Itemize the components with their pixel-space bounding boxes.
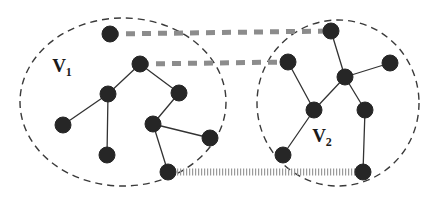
graph-node	[202, 130, 218, 146]
graph-node	[357, 102, 373, 118]
graph-node	[102, 26, 118, 42]
graph-node	[306, 102, 322, 118]
graph-nodes	[55, 23, 398, 180]
graph-partition-figure: V1V2	[0, 0, 439, 202]
graph-edge	[153, 124, 210, 138]
graph-node	[382, 55, 398, 71]
graph-node	[100, 86, 116, 102]
graph-canvas: V1V2	[0, 0, 439, 202]
graph-node	[99, 147, 115, 163]
cluster-boundaries	[20, 18, 419, 186]
cut-edges	[110, 31, 363, 176]
cluster-label-v1: V1	[52, 55, 72, 79]
graph-node	[160, 164, 176, 180]
graph-node	[280, 54, 296, 70]
graph-edge	[363, 110, 365, 172]
cut-edge-cut-bottom	[168, 169, 363, 176]
graph-edge	[107, 94, 108, 155]
graph-node	[275, 147, 291, 163]
graph-node	[323, 23, 339, 39]
graph-node	[355, 164, 371, 180]
graph-node	[145, 116, 161, 132]
cut-edge-cut-top	[110, 31, 331, 34]
graph-node	[55, 117, 71, 133]
cluster-label-v2: V2	[312, 125, 332, 149]
graph-node	[171, 85, 187, 101]
graph-node	[132, 56, 148, 72]
cluster-boundary-v1	[20, 18, 226, 186]
graph-node	[337, 69, 353, 85]
